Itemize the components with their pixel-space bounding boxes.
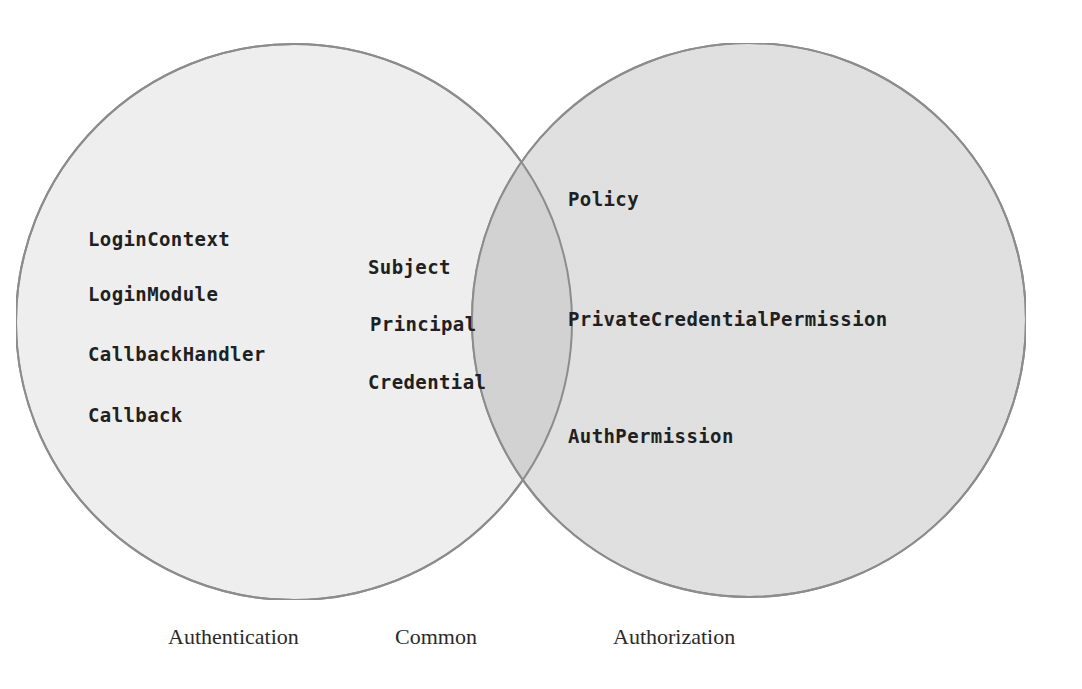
member-login-context[interactable]: LoginContext: [88, 228, 230, 250]
member-private-credential-permission[interactable]: PrivateCredentialPermission: [568, 308, 888, 330]
member-policy[interactable]: Policy: [568, 188, 639, 210]
caption-authorization: Authorization: [613, 624, 735, 650]
member-auth-permission[interactable]: AuthPermission: [568, 425, 734, 447]
member-login-module[interactable]: LoginModule: [88, 283, 218, 305]
caption-common: Common: [395, 624, 477, 650]
member-credential[interactable]: Credential: [368, 371, 486, 393]
member-callback[interactable]: Callback: [88, 404, 183, 426]
caption-authentication: Authentication: [168, 624, 299, 650]
member-subject[interactable]: Subject: [368, 256, 451, 278]
venn-diagram-canvas: LoginContext LoginModule CallbackHandler…: [0, 0, 1082, 689]
member-callback-handler[interactable]: CallbackHandler: [88, 343, 266, 365]
member-principal[interactable]: Principal: [370, 313, 477, 335]
